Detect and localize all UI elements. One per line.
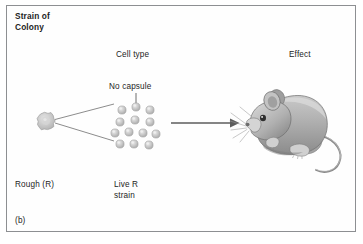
- figure-panel-b: Strain of Colony Cell type Effect No cap…: [0, 0, 363, 244]
- cell-type-label: Cell type: [116, 50, 149, 61]
- live-r-strain-label: Live R strain: [114, 180, 138, 201]
- effect-label: Effect: [289, 50, 311, 61]
- figure-border: [6, 5, 356, 232]
- rough-strain-label: Rough (R): [15, 180, 54, 191]
- no-capsule-label: No capsule: [109, 82, 151, 93]
- page-title: Strain of Colony: [15, 11, 50, 32]
- figure-letter: (b): [15, 216, 25, 227]
